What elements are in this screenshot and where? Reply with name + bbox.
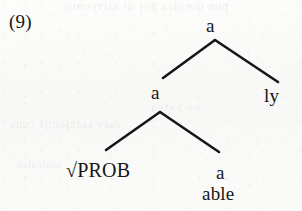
tree-node-root-a: a (206, 16, 215, 35)
tree-terminal-able: able (202, 184, 234, 203)
tree-node-root-prob: √PROB (66, 160, 130, 180)
branch-root-to-mid-a (163, 40, 215, 78)
tree-node-mid-a: a (151, 83, 160, 102)
branch-root-to-ly (215, 40, 278, 82)
figure-canvas: pue uorjdsa yor ui sarryonijs aaey saanj… (0, 0, 302, 211)
tree-branches (0, 0, 302, 211)
tree-node-a-able: a (216, 163, 225, 182)
branch-mid-a-to-a-able (160, 112, 219, 152)
tree-node-ly: ly (264, 86, 279, 105)
branch-mid-a-to-root-prob (106, 112, 160, 150)
